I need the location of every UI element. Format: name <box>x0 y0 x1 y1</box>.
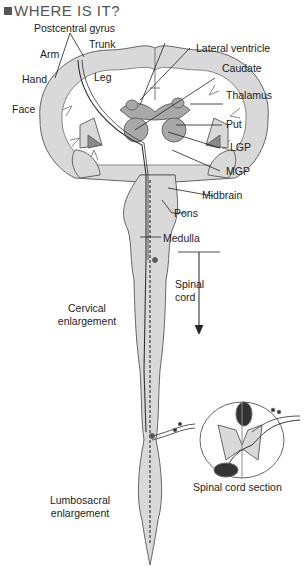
label-hand: Hand <box>22 73 47 85</box>
label-arm: Arm <box>40 48 59 60</box>
label-spinal-cord-section: Spinal cord section <box>193 481 282 493</box>
label-spinal-cord-2: cord <box>175 291 195 303</box>
label-put: Put <box>226 118 242 130</box>
label-leg: Leg <box>94 71 112 83</box>
label-trunk: Trunk <box>89 38 115 50</box>
label-lgp: LGP <box>230 141 251 153</box>
label-cervical-1: Cervical <box>52 302 122 314</box>
label-lumbosacral-2: enlargement <box>46 507 114 519</box>
label-postcentral-gyrus: Postcentral gyrus <box>34 22 115 34</box>
spinal-cord-section-diagram <box>200 402 300 478</box>
label-pons: Pons <box>174 207 198 219</box>
label-mgp: MGP <box>226 165 250 177</box>
label-lateral-ventricle: Lateral ventricle <box>196 42 270 54</box>
label-midbrain: Midbrain <box>202 189 242 201</box>
label-thalamus: Thalamus <box>226 89 272 101</box>
label-lumbosacral-1: Lumbosacral <box>46 494 114 506</box>
label-caudate: Caudate <box>222 62 262 74</box>
label-medulla: Medulla <box>163 232 200 244</box>
label-face: Face <box>12 103 35 115</box>
label-spinal-cord-1: Spinal <box>175 278 204 290</box>
label-cervical-2: enlargement <box>48 315 126 327</box>
